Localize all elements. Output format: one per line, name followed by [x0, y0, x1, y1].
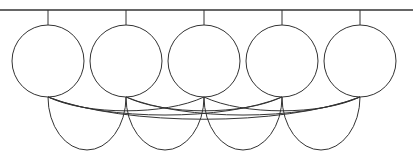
connection-curve: [48, 97, 282, 115]
diagram-canvas: [0, 0, 413, 159]
circle-node: [324, 25, 396, 97]
circle-node: [90, 25, 162, 97]
circle-node: [168, 25, 240, 97]
connection-curve: [126, 97, 360, 115]
lower-loop-arc: [282, 97, 360, 150]
circle-node: [246, 25, 318, 97]
lower-loop-arc: [204, 97, 282, 150]
lower-loop-arc: [48, 97, 126, 150]
lower-loop-arc: [126, 97, 204, 150]
circle-network-diagram: [0, 0, 413, 159]
circle-node: [12, 25, 84, 97]
